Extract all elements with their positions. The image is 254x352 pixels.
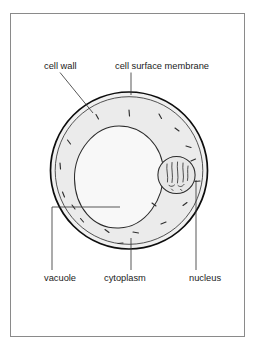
label-nucleus: nucleus [189,273,221,283]
label-cell-wall: cell wall [44,61,77,71]
label-cell-surface-membrane: cell surface membrane [115,61,209,71]
nucleus-shape [158,156,195,193]
label-vacuole: vacuole [44,273,76,283]
label-cytoplasm: cytoplasm [104,273,146,283]
cell-diagram-figure: cell wall cell surface membrane vacuole … [0,0,254,352]
cell-diagram-canvas: cell wall cell surface membrane vacuole … [0,0,254,352]
